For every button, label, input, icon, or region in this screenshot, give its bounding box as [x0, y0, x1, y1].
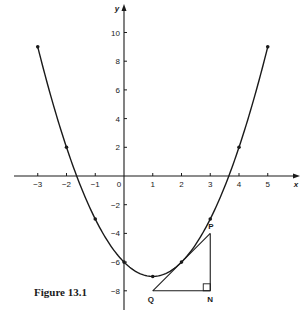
graph-plot: −3−2−1012345108642−2−4−6−8 PQN xy — [0, 0, 306, 318]
point-label-p: P — [208, 222, 214, 231]
x-tick-label: 4 — [237, 180, 242, 189]
data-point-dot — [237, 146, 241, 150]
x-tick-label: 5 — [266, 180, 271, 189]
data-point-dot — [122, 260, 126, 264]
x-axis-arrow-icon — [293, 174, 300, 179]
data-point-dot — [151, 275, 155, 279]
x-tick-label: −2 — [62, 180, 72, 189]
parabola-path — [38, 47, 268, 277]
x-tick-label: −1 — [91, 180, 101, 189]
x-tick-label: 3 — [208, 180, 213, 189]
y-tick-label: −4 — [111, 229, 121, 238]
x-tick-label: −3 — [33, 180, 43, 189]
y-axis-arrow-icon — [122, 4, 127, 11]
tangent-line — [153, 233, 211, 290]
y-tick-label: −6 — [111, 258, 121, 267]
y-tick-label: 2 — [116, 143, 121, 152]
x-tick-label: 2 — [179, 180, 184, 189]
data-point-dot — [266, 45, 270, 49]
data-point-dot — [93, 217, 97, 221]
y-tick-label: 6 — [116, 86, 121, 95]
parabola-curve — [36, 45, 270, 278]
x-tick-label: 0 — [117, 180, 122, 189]
y-axis-label: y — [114, 4, 120, 13]
y-tick-label: 4 — [116, 115, 121, 124]
right-angle-marker-icon — [203, 284, 210, 291]
data-point-dot — [65, 146, 69, 150]
y-tick-label: −8 — [111, 287, 121, 296]
x-tick-label: 1 — [151, 180, 156, 189]
data-point-dot — [208, 217, 212, 221]
x-axis-label: x — [293, 180, 299, 189]
y-tick-label: 8 — [116, 57, 121, 66]
y-tick-label: 10 — [111, 29, 120, 38]
point-label-q: Q — [148, 295, 154, 304]
axes: −3−2−1012345108642−2−4−6−8 — [14, 4, 300, 310]
data-point-dot — [36, 45, 40, 49]
y-tick-label: −2 — [111, 201, 121, 210]
tangent-triangle: PQN — [148, 222, 215, 303]
axis-labels: xy — [114, 4, 299, 189]
figure-caption: Figure 13.1 — [34, 286, 87, 298]
point-label-n: N — [207, 295, 213, 304]
